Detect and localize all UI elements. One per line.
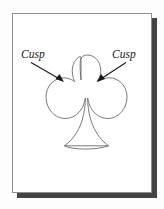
club-outline — [46, 55, 127, 146]
club-diagram-svg — [0, 0, 164, 209]
arrow-right-line — [100, 63, 126, 80]
arrow-right-head — [97, 74, 106, 82]
figure-container: Cusp Cusp — [0, 0, 164, 209]
arrow-left-line — [31, 63, 61, 80]
arrow-left — [31, 63, 64, 83]
club-base-bar — [64, 146, 108, 149]
cusp-label-right: Cusp — [112, 49, 136, 61]
cusp-label-left: Cusp — [21, 49, 45, 61]
